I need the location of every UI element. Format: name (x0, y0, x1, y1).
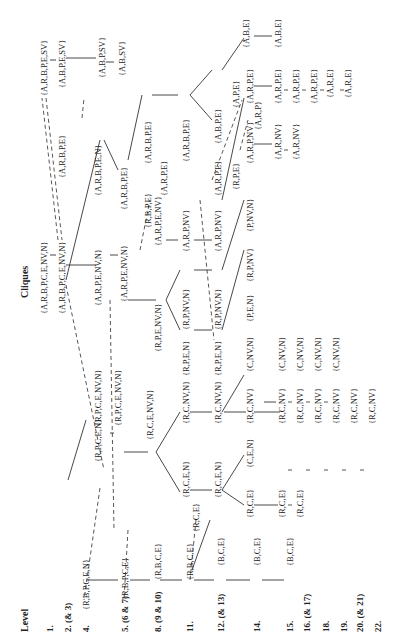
clique-node: {R,C,E,N} (182, 461, 191, 498)
clique-node: {R,C,E} (296, 489, 305, 518)
clique-node: {R,C,E,N} (214, 461, 223, 498)
clique-node: {A,R,P,NV} (182, 210, 191, 252)
clique-node: {A,R,P,E} (274, 69, 283, 104)
clique-node: {A,R,B,P,E,N} (94, 145, 103, 196)
level-label: 16. (& 17) (303, 594, 312, 632)
clique-node: {R,B,C,E} (186, 543, 195, 580)
clique-node: {C,E,N} (246, 439, 255, 468)
clique-node: {R,P,E,N} (182, 341, 191, 376)
clique-node: {A,R,E} (344, 69, 353, 98)
clique-node: {R,C,NV} (246, 388, 255, 424)
level-label: 19. (340, 621, 349, 632)
clique-node: {R,P,C,E,NV,N} (114, 370, 123, 426)
clique-node: {B,C,E} (217, 537, 226, 566)
clique-node: {R,P,C,E,N} (94, 419, 103, 462)
clique-node: {R,C,NV} (368, 388, 377, 424)
level-label: 8. (9 & 10) (154, 592, 163, 633)
level-label: 11. (186, 621, 195, 632)
clique-node: {A,R,P,NV} (246, 122, 255, 164)
clique-node: {A,R,NV} (274, 124, 283, 161)
clique-node: {R,C,NV} (350, 388, 359, 424)
clique-node: {A,R,B,P,C,E,NV,N} (58, 242, 67, 314)
clique-node: {R,C,E,NV,N} (146, 389, 155, 440)
clique-node: {A,P,E} (232, 80, 241, 108)
clique-node: {A,R,B,P,E} (58, 135, 67, 178)
clique-node: {R,C,E} (246, 489, 255, 518)
clique-node: {R,P,E} (232, 163, 241, 190)
level-label: 12. (& 13) (217, 594, 226, 632)
level-label: 2. (& 3) (64, 603, 73, 632)
clique-node: {A,R,P,E,NV} (154, 196, 163, 246)
clique-node: {R,P,E,N} (214, 341, 223, 376)
level-header: Level (20, 609, 30, 632)
clique-node: {R,P,NV} (246, 248, 255, 282)
clique-node: {A,R,P,NV} (214, 210, 223, 252)
level-label: 5. (6 & 7) (121, 596, 130, 632)
clique-node: {R,P,NV,N} (214, 289, 223, 330)
clique-node: {A,R,P,E,NV,N} (94, 249, 103, 306)
clique-node: {A,R,NV} (292, 124, 301, 161)
clique-node: {A,R,B,P,E} (182, 119, 191, 162)
level-label: 18. (322, 621, 331, 632)
clique-node: {A,R,B,P,C,E,NV,N} (40, 242, 49, 314)
level-label: 4. (82, 625, 91, 632)
clique-node: {A,R,P} (254, 101, 263, 130)
level-label: 22. (374, 621, 383, 632)
clique-node: {A,R,P,E} (160, 161, 169, 196)
clique-node: {R,B,C,E} (154, 543, 163, 580)
clique-node: {B,C,E} (253, 537, 262, 566)
clique-node: {R,P,NV,N} (182, 289, 191, 330)
clique-node: {A,R,B,P,E,SV} (40, 40, 49, 96)
clique-node: {R,P,E,NV,N} (154, 303, 163, 352)
clique-node: {A,R,P,E,NV,N} (120, 245, 129, 302)
clique-node: {A,R,P,E} (214, 161, 223, 196)
clique-node: {A,R,P,E} (310, 69, 319, 104)
clique-node: {R,B,P,C,E,N} (82, 559, 91, 610)
level-label: 14. (253, 621, 262, 632)
clique-node: {C,NV,N} (246, 337, 255, 372)
clique-node: {R,C,NV} (296, 388, 305, 424)
clique-node: {R,C,NV} (314, 388, 323, 424)
clique-node: {C,NV,N} (332, 337, 341, 372)
clique-node: {A,R,B,P,E} (120, 167, 129, 210)
clique-node: {R,C,NV,N} (182, 381, 191, 424)
clique-node: {R,C,E} (278, 489, 287, 518)
cliques-header: Cliques (20, 266, 30, 298)
clique-node: {R,C,NV} (278, 388, 287, 424)
clique-node: {R,C,E} (192, 503, 201, 532)
clique-node: {A,R,E} (326, 69, 335, 98)
clique-node: {A,R,P,E} (292, 69, 301, 104)
clique-node: {C,NV,N} (278, 337, 287, 372)
clique-node: {C,NV,N} (314, 337, 323, 372)
clique-node: {A,B,E} (242, 19, 251, 48)
clique-node: {R,P,C,E,NV,N} (94, 370, 103, 426)
clique-node: {R,B,P,C,E} (121, 557, 130, 600)
clique-node: {R,C,NV} (332, 388, 341, 424)
clique-node: {B,C,E} (286, 537, 295, 566)
clique-node: {A,B,P,E,SV} (58, 40, 67, 88)
clique-node: {A,B,P,E} (214, 109, 223, 144)
clique-node: {C,NV,N} (296, 337, 305, 372)
clique-node: {R,C,NV,N} (214, 381, 223, 424)
level-label: 20. (& 21) (356, 594, 365, 632)
clique-node: {R,B,P,E} (144, 193, 153, 228)
clique-node: {P,E,N} (246, 294, 255, 322)
clique-node: {A,B,E} (274, 19, 283, 48)
clique-node: {A,R,P,E} (246, 69, 255, 104)
level-label: 15. (286, 621, 295, 632)
clique-node: {P,NV,N} (246, 198, 255, 232)
level-label: 1. (46, 625, 55, 632)
clique-node: {A,B,SV} (118, 41, 127, 76)
clique-node: {A,R,B,P,E} (144, 121, 153, 164)
clique-node: {A,B,P,SV} (98, 37, 107, 78)
